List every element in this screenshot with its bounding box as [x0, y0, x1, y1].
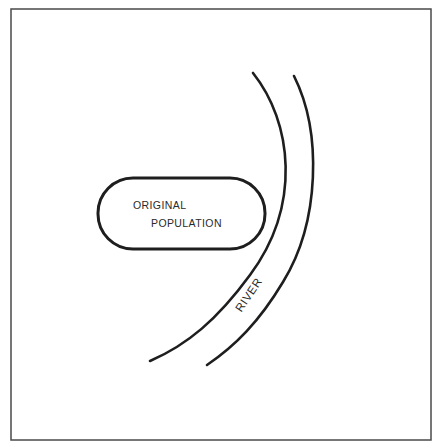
original-population-group: ORIGINAL POPULATION [98, 178, 265, 249]
population-capsule [98, 178, 265, 249]
river-label: RIVER [233, 276, 264, 314]
population-label-line2: POPULATION [151, 217, 222, 229]
diagram-canvas: RIVER ORIGINAL POPULATION [0, 0, 441, 448]
population-label-line1: ORIGINAL [133, 199, 186, 211]
